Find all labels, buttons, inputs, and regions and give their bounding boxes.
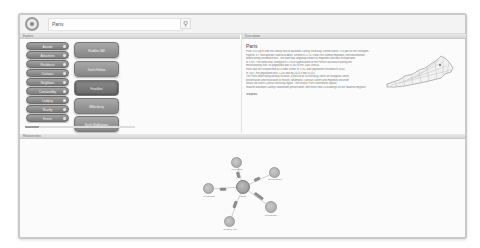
- category-button[interactable]: Lodging: [26, 96, 69, 104]
- kentucky-map-icon: [385, 54, 455, 90]
- scrollbar-thumb[interactable]: [25, 126, 39, 128]
- plus-icon: [63, 54, 66, 57]
- plus-icon: [63, 72, 66, 75]
- plus-icon: [63, 117, 66, 120]
- category-button[interactable]: Nearby: [26, 105, 69, 113]
- result-button-selected[interactable]: Frankfort: [74, 80, 119, 96]
- app-window: Paris ⚲ Explore Awards Attractions Resid…: [18, 13, 467, 239]
- wikipedia-link[interactable]: Wikipedia: [246, 93, 386, 97]
- category-button[interactable]: Residence: [26, 60, 69, 68]
- explore-panel-header: Explore: [20, 34, 240, 39]
- place-title: Paris: [246, 43, 257, 49]
- explore-panel: Explore Awards Attractions Residence Con…: [20, 34, 240, 133]
- graph-node[interactable]: [269, 167, 280, 178]
- description-panel-header: Description: [242, 34, 466, 39]
- plus-icon: [63, 81, 66, 84]
- graph-node[interactable]: [265, 201, 277, 213]
- category-button[interactable]: Awards: [26, 42, 69, 50]
- result-button[interactable]: North Middletown: [74, 116, 119, 132]
- graph-node-center[interactable]: [236, 180, 250, 194]
- category-button[interactable]: Containedby: [26, 87, 69, 95]
- graph-node[interactable]: [231, 157, 242, 168]
- description-panel: Description Paris Paris is a city in and…: [241, 34, 466, 133]
- top-bar: Paris ⚲: [20, 15, 465, 34]
- plus-icon: [63, 45, 66, 48]
- category-button[interactable]: Contains: [26, 69, 69, 77]
- plus-icon: [63, 63, 66, 66]
- horizontal-scrollbar[interactable]: [25, 126, 135, 128]
- result-button[interactable]: Dutch Hollow: [74, 61, 119, 77]
- result-button[interactable]: Ruddles Mill: [74, 42, 119, 58]
- plus-icon: [63, 108, 66, 111]
- search-icon[interactable]: ⚲: [180, 18, 191, 29]
- graph-node[interactable]: [224, 216, 235, 227]
- result-button[interactable]: Millersburg: [74, 98, 119, 114]
- category-button[interactable]: Neighbors: [26, 78, 69, 86]
- category-button[interactable]: Attractions: [26, 51, 69, 59]
- graph-node[interactable]: [203, 183, 214, 194]
- plus-icon: [63, 99, 66, 102]
- search-input[interactable]: Paris: [48, 18, 183, 31]
- description-text: Paris is a city in and the county seat o…: [246, 50, 386, 96]
- relationships-panel: Relationships Paris Lexington Georgetown: [20, 134, 465, 237]
- category-button[interactable]: Events: [26, 114, 69, 122]
- plus-icon: [63, 90, 66, 93]
- globe-logo-icon[interactable]: [25, 17, 39, 31]
